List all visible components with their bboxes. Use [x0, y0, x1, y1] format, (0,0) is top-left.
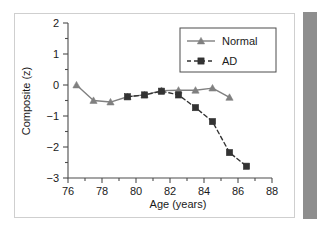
legend-label-ad: AD — [222, 55, 237, 67]
y-tick-label: 2 — [53, 17, 59, 29]
x-tick-label: 88 — [266, 185, 278, 197]
line-chart: 76788082848688210−1−2−3 NormalAD Age (ye… — [0, 0, 325, 231]
data-point-ad — [192, 105, 198, 111]
x-tick-label: 76 — [62, 185, 74, 197]
x-axis-title: Age (years) — [150, 198, 207, 210]
data-point-ad — [226, 149, 232, 155]
x-tick-label: 78 — [96, 185, 108, 197]
x-tick-label: 86 — [232, 185, 244, 197]
data-point-normal — [73, 81, 80, 87]
y-tick-label: −1 — [46, 110, 59, 122]
x-tick-label: 82 — [164, 185, 176, 197]
data-point-ad — [158, 88, 164, 94]
chart-screenshot: 76788082848688210−1−2−3 NormalAD Age (ye… — [0, 0, 325, 231]
y-tick-label: 1 — [53, 48, 59, 60]
x-tick-label: 80 — [130, 185, 142, 197]
chart-legend: NormalAD — [180, 28, 276, 72]
y-axis-title: Composite (z) — [20, 67, 32, 135]
data-point-ad — [243, 163, 249, 169]
legend-label-normal: Normal — [222, 35, 257, 47]
data-point-ad — [175, 92, 181, 98]
data-point-normal — [226, 94, 233, 100]
y-tick-label: 0 — [53, 79, 59, 91]
legend-marker-ad — [198, 58, 204, 64]
series-line-normal — [77, 85, 230, 102]
series-normal — [73, 81, 233, 105]
chart-series-group — [73, 81, 250, 169]
y-tick-label: −3 — [46, 172, 59, 184]
x-tick-label: 84 — [198, 185, 210, 197]
data-point-ad — [124, 94, 130, 100]
y-tick-label: −2 — [46, 141, 59, 153]
data-point-ad — [209, 118, 215, 124]
data-point-ad — [141, 92, 147, 98]
